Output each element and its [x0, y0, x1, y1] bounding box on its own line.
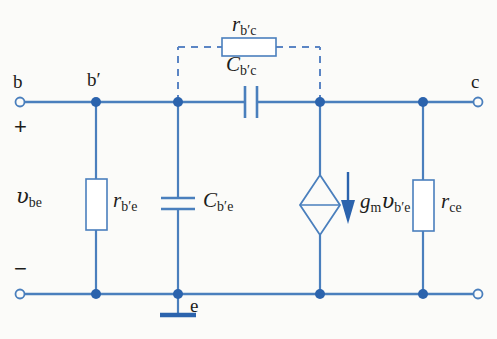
label-vbe: υbe: [16, 186, 42, 207]
resistor-rbe-branch: [86, 102, 107, 294]
label-cbc-sub: b′c: [240, 63, 256, 78]
node-label-e: e: [190, 296, 198, 315]
label-cbc: Cb′c: [226, 54, 256, 75]
dependent-current-source: [300, 102, 340, 294]
label-rbc-main: r: [232, 12, 240, 36]
junction-dot-rce-top: [418, 97, 428, 107]
circuit-diagram-canvas: b c b′ e + − υbe rb′c Cb′c rb′e Cb′e gmυ…: [0, 0, 497, 339]
label-rce-sub: ce: [449, 200, 462, 215]
label-rbe: rb′e: [113, 190, 138, 211]
terminal-circle-c[interactable]: [474, 98, 483, 107]
junction-dot-bprime-bottom: [91, 289, 101, 299]
junction-dot-bprime: [91, 97, 101, 107]
label-gm-var: υ: [381, 189, 394, 213]
label-cbe: Cb′e: [203, 190, 233, 211]
capacitor-cbc: [245, 86, 257, 118]
label-rbc-sub: b′c: [240, 23, 256, 38]
label-rbc: rb′c: [232, 14, 257, 35]
label-rbe-main: r: [113, 188, 121, 212]
terminal-label-c: c: [471, 72, 479, 91]
terminal-circle-b[interactable]: [16, 98, 25, 107]
resistor-rbe-body: [86, 179, 107, 230]
label-rce-main: r: [441, 189, 449, 213]
label-gm-sub: m: [371, 200, 382, 215]
junction-dot-collector: [315, 97, 325, 107]
label-cbe-main: C: [203, 188, 217, 212]
polarity-plus-sign: +: [14, 116, 27, 138]
label-vbe-sub: be: [29, 195, 42, 210]
terminal-circle-b-bottom[interactable]: [16, 290, 25, 299]
label-gm-main: g: [360, 189, 371, 213]
label-cbc-main: C: [226, 52, 240, 76]
node-label-bprime: b′: [87, 70, 101, 89]
label-gm-vbe: gmυb′e: [360, 191, 411, 212]
circuit-schematic-svg: [0, 0, 497, 339]
junction-dot-internal-top: [173, 97, 183, 107]
terminal-circle-c-bottom[interactable]: [474, 290, 483, 299]
label-rbe-sub: b′e: [121, 199, 137, 214]
polarity-minus-sign: −: [14, 258, 27, 280]
label-cbe-sub: b′e: [217, 199, 233, 214]
label-rce: rce: [441, 191, 462, 212]
label-gm-var-sub: b′e: [394, 200, 410, 215]
capacitor-cbe-branch: [161, 102, 195, 294]
resistor-rce-branch: [413, 102, 434, 294]
current-arrow-head: [341, 200, 355, 224]
current-direction-arrow: [341, 172, 355, 224]
resistor-rce-body: [413, 180, 434, 231]
terminal-label-b: b: [13, 72, 23, 91]
junction-dot-rce-bottom: [418, 289, 428, 299]
label-vbe-var: υ: [16, 184, 29, 208]
junction-dot-e: [173, 289, 183, 299]
junction-dot-source-bottom: [315, 289, 325, 299]
